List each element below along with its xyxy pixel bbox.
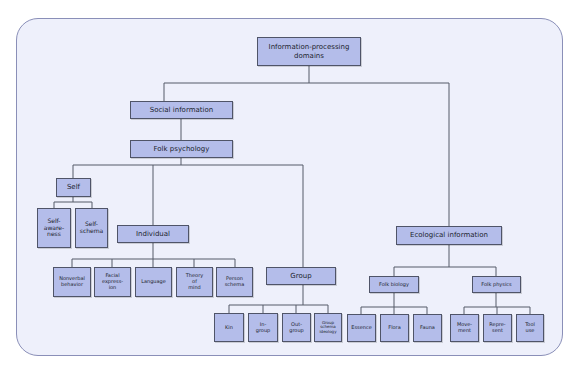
- node-movement: Move- ment: [450, 314, 479, 342]
- node-fauna: Fauna: [413, 314, 442, 342]
- node-individual: Individual: [117, 225, 189, 243]
- node-folk-psychology: Folk psychology: [130, 140, 233, 158]
- node-ecological-information: Ecological information: [396, 226, 502, 245]
- node-tool-use: Tool use: [516, 314, 544, 342]
- node-essence: Essence: [347, 314, 376, 342]
- node-represent: Repre- sent: [483, 314, 512, 342]
- node-kin: Kin: [214, 313, 244, 342]
- node-social-information: Social information: [130, 101, 233, 119]
- node-information-processing-domains: Information-processing domains: [257, 37, 361, 66]
- node-folk-physics: Folk physics: [472, 276, 521, 293]
- node-group-schema-ideology: Group schema ideology: [314, 313, 342, 342]
- node-language: Language: [135, 267, 172, 297]
- node-group: Group: [266, 267, 336, 285]
- node-nonverbal-behavior: Nonverbal behavior: [53, 267, 91, 297]
- node-flora: Flora: [380, 314, 409, 342]
- node-self-schema: Self- schema: [75, 208, 108, 248]
- node-theory-of-mind: Theory of mind: [176, 267, 213, 297]
- node-in-group: In- group: [248, 313, 278, 342]
- node-out-group: Out- group: [282, 313, 311, 342]
- node-folk-biology: Folk biology: [369, 276, 419, 293]
- node-self-awareness: Self- aware- ness: [37, 208, 71, 248]
- node-self: Self: [56, 178, 91, 197]
- node-facial-expression: Facial express- ion: [94, 267, 131, 297]
- node-person-schema: Person schema: [216, 267, 253, 297]
